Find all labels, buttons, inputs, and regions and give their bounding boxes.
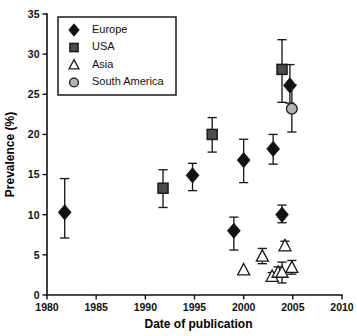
y-tick-label: 10 <box>28 209 40 221</box>
y-tick-label: 5 <box>34 249 40 261</box>
data-point <box>286 261 298 272</box>
data-point <box>256 250 268 261</box>
data-point <box>227 223 240 238</box>
x-tick-label: 2005 <box>281 301 305 313</box>
legend-marker-usa <box>70 43 78 51</box>
data-point <box>238 264 250 275</box>
data-point <box>58 205 71 220</box>
data-point <box>286 103 297 114</box>
y-tick-label: 35 <box>28 8 40 20</box>
axis-titles: Date of publicationPrevalence (%) <box>3 112 253 331</box>
x-tick-label: 2010 <box>330 301 354 313</box>
legend-label-south-america: South America <box>92 75 164 87</box>
chart-figure: 0510152025303519801985199019952000200520… <box>0 0 357 336</box>
legend-label-europe: Europe <box>92 23 127 35</box>
x-tick-label: 1980 <box>35 301 59 313</box>
x-tick-label: 1990 <box>134 301 158 313</box>
data-point <box>237 153 250 168</box>
series-usa <box>158 40 287 208</box>
legend-label-asia: Asia <box>92 58 114 70</box>
x-tick-label: 1995 <box>183 301 207 313</box>
scatter-plot: 0510152025303519801985199019952000200520… <box>0 0 357 336</box>
y-tick-label: 0 <box>34 289 40 301</box>
data-point <box>277 64 287 74</box>
data-point <box>158 183 168 193</box>
legend-label-usa: USA <box>92 40 115 52</box>
data-point <box>207 129 217 139</box>
series-south-america <box>286 85 297 132</box>
series-asia <box>238 239 298 283</box>
data-point <box>186 168 199 183</box>
x-axis-title: Date of publication <box>145 317 253 331</box>
y-tick-label: 20 <box>28 128 40 140</box>
chart-legend: EuropeUSAAsiaSouth America <box>58 17 176 95</box>
x-tick-label: 2000 <box>232 301 256 313</box>
data-point <box>267 141 280 156</box>
y-tick-label: 15 <box>28 168 40 180</box>
legend-marker-south-america <box>70 78 79 87</box>
data-point <box>276 207 289 222</box>
y-axis-title: Prevalence (%) <box>3 112 17 197</box>
x-tick-label: 1985 <box>84 301 108 313</box>
y-tick-label: 30 <box>28 48 40 60</box>
y-tick-label: 25 <box>28 88 40 100</box>
data-point <box>283 78 296 93</box>
